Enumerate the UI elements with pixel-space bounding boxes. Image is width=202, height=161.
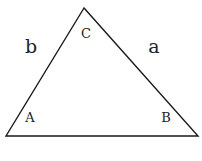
side-label-left: b [25, 35, 37, 57]
side-label-right: a [148, 35, 159, 57]
triangle-diagram: C b a A B [0, 0, 202, 161]
vertex-label-bottom-left: A [24, 110, 35, 125]
vertex-label-top: C [81, 26, 91, 41]
vertex-label-bottom-right: B [161, 110, 171, 125]
